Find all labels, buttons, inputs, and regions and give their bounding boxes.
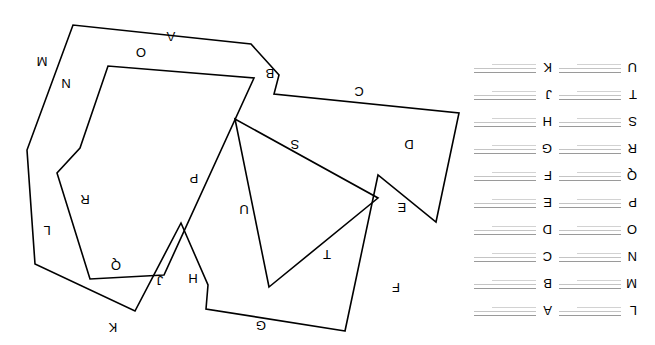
edge-label-o: O [136,45,146,60]
rotated-figure-container: LMNOPQRSTU ABCDEFGHJK ABCDEFGHJKLMNOPQRS… [0,0,655,345]
edge-label-s: S [290,137,299,152]
edge-label-d: D [404,137,413,152]
edge-label-j: J [157,273,164,288]
edge-label-u: U [239,202,248,217]
edge-label-q: Q [111,258,121,273]
polygon-drawing: ABCDEFGHJKLMNOPQRSTU [0,0,655,345]
edge-label-f: F [392,280,400,295]
triangle [235,119,378,287]
diagram-page: LMNOPQRSTU ABCDEFGHJK ABCDEFGHJKLMNOPQRS… [0,0,655,345]
edge-label-a: A [166,29,175,44]
edge-label-h: H [188,271,197,286]
edge-label-r: R [80,192,89,207]
edge-label-c: C [354,84,363,99]
edge-label-n: N [61,76,70,91]
edge-label-m: M [37,54,48,69]
edge-label-k: K [108,320,117,335]
edge-label-t: T [323,247,331,262]
edge-label-b: B [266,66,275,81]
edge-label-l: L [43,223,50,238]
edge-label-e: E [397,200,406,215]
inner-polygon [57,66,254,279]
edge-label-g: G [256,318,266,333]
edge-label-p: P [190,171,199,186]
